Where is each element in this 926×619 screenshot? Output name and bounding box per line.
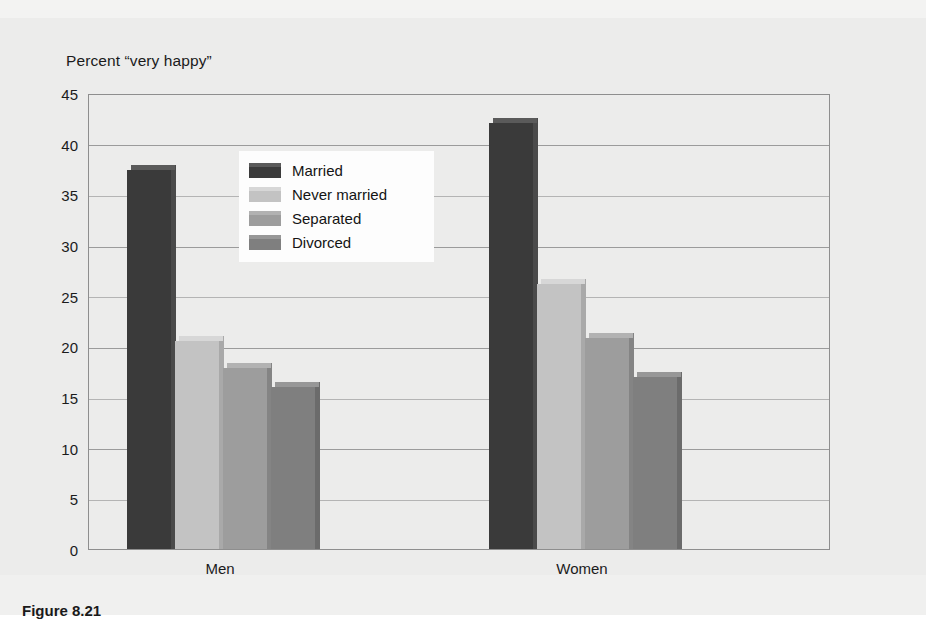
bar-men-separated (223, 368, 267, 549)
plot-area (88, 94, 830, 550)
y-tick-label: 20 (34, 339, 78, 356)
figure-caption: Figure 8.21 (22, 602, 101, 619)
gridline (89, 145, 829, 146)
legend-label: Divorced (292, 234, 351, 251)
paper-top-edge (0, 0, 926, 18)
gridline (89, 247, 829, 248)
legend-swatch-icon (249, 163, 281, 178)
legend-item-married: Married (249, 158, 424, 182)
y-tick-label: 10 (34, 440, 78, 457)
bar-side-bevel (315, 382, 320, 549)
y-tick-label: 0 (34, 542, 78, 559)
x-tick-label-men: Men (205, 560, 234, 577)
bar-men-married (127, 170, 171, 549)
bar-face (585, 338, 629, 549)
bar-face (489, 123, 533, 549)
legend-item-divorced: Divorced (249, 230, 424, 254)
gridline (89, 196, 829, 197)
y-tick-label: 30 (34, 238, 78, 255)
bar-men-divorced (271, 387, 315, 549)
y-tick-label: 40 (34, 136, 78, 153)
bar-face (175, 341, 219, 549)
y-axis-title: Percent “very happy” (66, 52, 212, 70)
legend-label: Married (292, 162, 343, 179)
legend-item-separated: Separated (249, 206, 424, 230)
legend-swatch-bevel (249, 187, 281, 191)
legend-swatch-bevel (249, 211, 281, 215)
legend-swatch-icon (249, 211, 281, 226)
bar-women-divorced (633, 377, 677, 549)
paper-bottom-edge (0, 575, 926, 615)
bar-women-separated (585, 338, 629, 549)
legend-swatch-icon (249, 235, 281, 250)
y-tick-label: 15 (34, 390, 78, 407)
gridline (89, 297, 829, 298)
legend-swatch-icon (249, 187, 281, 202)
bar-women-never-married (537, 284, 581, 549)
x-tick-label-women: Women (556, 560, 607, 577)
y-tick-label: 45 (34, 86, 78, 103)
bar-side-bevel (677, 372, 682, 549)
bar-face (271, 387, 315, 549)
chart-legend: MarriedNever marriedSeparatedDivorced (239, 151, 434, 262)
bar-face (223, 368, 267, 549)
bar-women-married (489, 123, 533, 549)
bar-face (127, 170, 171, 549)
bar-face (537, 284, 581, 549)
y-tick-label: 5 (34, 491, 78, 508)
legend-item-never-married: Never married (249, 182, 424, 206)
legend-label: Separated (292, 210, 361, 227)
legend-swatch-bevel (249, 235, 281, 239)
y-tick-label: 35 (34, 187, 78, 204)
legend-label: Never married (292, 186, 387, 203)
bar-men-never-married (175, 341, 219, 549)
bar-face (633, 377, 677, 549)
y-tick-label: 25 (34, 288, 78, 305)
legend-swatch-bevel (249, 163, 281, 167)
